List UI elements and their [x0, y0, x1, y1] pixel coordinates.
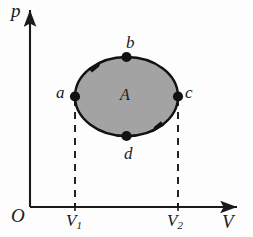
state-point-label-a: a: [56, 84, 65, 101]
origin-label: O: [11, 206, 25, 225]
state-point-label-d: d: [124, 145, 133, 162]
tick-label-v2: V2: [167, 212, 183, 229]
tick-label-v2-base: V: [167, 211, 177, 230]
tick-label-v2-subscript: 2: [177, 219, 183, 231]
state-point-c: [173, 91, 183, 101]
tick-label-v1: V1: [66, 212, 82, 229]
volume-axis-label: V: [222, 212, 234, 231]
state-point-b: [121, 52, 131, 62]
tick-label-v1-subscript: 1: [76, 219, 82, 231]
cycle-area-label: A: [120, 87, 130, 103]
pv-diagram-figure: p V O V1 V2 a b c d A: [0, 0, 253, 237]
pressure-axis-label: p: [11, 1, 21, 20]
state-point-a: [70, 91, 80, 101]
state-point-d: [121, 131, 131, 141]
tick-label-v1-base: V: [66, 211, 76, 230]
state-point-label-c: c: [185, 84, 193, 101]
state-point-label-b: b: [126, 34, 135, 51]
